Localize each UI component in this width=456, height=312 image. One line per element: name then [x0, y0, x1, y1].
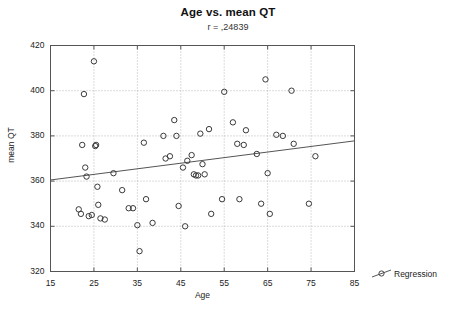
data-point: [137, 248, 142, 253]
x-tick-25: 25: [79, 278, 109, 288]
x-axis-label: Age: [50, 290, 355, 300]
data-point: [150, 220, 155, 225]
x-tick-45: 45: [166, 278, 196, 288]
data-point: [202, 172, 207, 177]
x-tick-15: 15: [36, 278, 66, 288]
data-point: [81, 91, 86, 96]
data-point: [198, 131, 203, 136]
data-point: [258, 201, 263, 206]
data-point: [143, 196, 148, 201]
legend-label: Regression: [394, 269, 437, 279]
data-point: [291, 141, 296, 146]
x-tick-65: 65: [253, 278, 283, 288]
data-point: [111, 170, 116, 175]
data-point: [119, 187, 124, 192]
data-point: [243, 128, 248, 133]
data-point: [83, 165, 88, 170]
grid-lines: [51, 46, 355, 272]
data-point: [306, 201, 311, 206]
x-tick-55: 55: [209, 278, 239, 288]
chart-subtitle-correlation: r = ,24839: [0, 22, 456, 32]
data-point: [141, 140, 146, 145]
data-point: [241, 142, 246, 147]
data-point: [237, 196, 242, 201]
chart-title: Age vs. mean QT: [0, 6, 456, 18]
data-point: [313, 154, 318, 159]
data-point: [96, 202, 101, 207]
regression-line: [51, 141, 355, 180]
data-point: [274, 132, 279, 137]
data-point: [208, 211, 213, 216]
x-tick-75: 75: [296, 278, 326, 288]
data-point: [289, 88, 294, 93]
plot-area: [0, 0, 456, 312]
data-point: [230, 120, 235, 125]
data-point: [189, 152, 194, 157]
data-point: [206, 126, 211, 131]
legend-marker-icon: [372, 268, 392, 280]
y-tick-340: 340: [11, 220, 45, 230]
data-point: [167, 154, 172, 159]
data-points: [76, 59, 318, 254]
data-point: [235, 141, 240, 146]
x-tick-35: 35: [122, 278, 152, 288]
data-point: [172, 117, 177, 122]
y-tick-360: 360: [11, 175, 45, 185]
data-point: [174, 133, 179, 138]
plot-frame: [51, 46, 355, 272]
x-tick-85: 85: [340, 278, 370, 288]
data-point: [95, 184, 100, 189]
data-point: [180, 165, 185, 170]
y-tick-420: 420: [11, 40, 45, 50]
data-point: [84, 174, 89, 179]
y-axis-label: mean QT: [6, 110, 16, 180]
data-point: [78, 211, 83, 216]
data-point: [200, 161, 205, 166]
data-point: [176, 203, 181, 208]
y-tick-380: 380: [11, 130, 45, 140]
y-tick-400: 400: [11, 85, 45, 95]
data-point: [80, 142, 85, 147]
chart-container: Age vs. mean QT r = ,24839 mean QT Age 3…: [0, 0, 456, 312]
axis-tick-marks: [51, 46, 355, 272]
y-tick-320: 320: [11, 266, 45, 276]
legend: Regression: [372, 268, 392, 280]
